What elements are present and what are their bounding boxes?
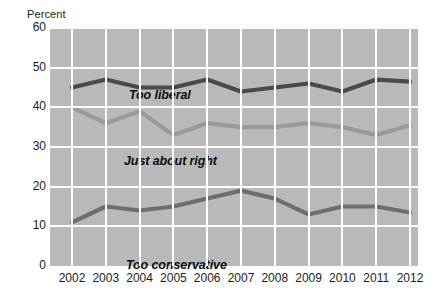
y-axis-tick-label: 0 <box>2 258 46 272</box>
x-axis-tick-labels: 2002200320042005200620072008200920102011… <box>0 271 438 293</box>
x-axis-tick-label: 2010 <box>329 271 356 285</box>
gridline-vertical <box>206 28 208 266</box>
x-axis-tick-label: 2011 <box>363 271 389 285</box>
x-axis-tick-label: 2003 <box>92 271 119 285</box>
y-axis-tick-labels: 6050403020100 <box>0 0 46 299</box>
y-axis-tick-label: 40 <box>2 99 46 113</box>
plot-area: Too liberal Just about right Too conserv… <box>50 28 418 266</box>
x-axis-tick-label: 2008 <box>261 271 288 285</box>
gridline-vertical <box>308 28 310 266</box>
x-axis-tick-label: 2009 <box>295 271 322 285</box>
y-axis-tick-label: 20 <box>2 179 46 193</box>
x-axis-tick-label: 2005 <box>160 271 187 285</box>
x-axis-tick-label: 2007 <box>228 271 255 285</box>
chart-page: Percent 6050403020100 Too liberal Just a… <box>0 0 438 299</box>
gridline-vertical <box>71 28 73 266</box>
x-axis-tick-label: 2006 <box>194 271 221 285</box>
x-axis-tick-label: 2012 <box>397 271 424 285</box>
x-axis-tick-label: 2004 <box>126 271 153 285</box>
gridline-vertical <box>240 28 242 266</box>
gridline-vertical <box>341 28 343 266</box>
gridline-vertical <box>105 28 107 266</box>
y-axis-tick-label: 60 <box>2 20 46 34</box>
series-label-too-conservative: Too conservative <box>126 258 227 272</box>
x-axis-tick-label: 2002 <box>59 271 86 285</box>
gridline-vertical <box>409 28 411 266</box>
y-axis-tick-label: 30 <box>2 139 46 153</box>
gridline-vertical <box>172 28 174 266</box>
y-axis-tick-label: 50 <box>2 60 46 74</box>
gridline-vertical <box>139 28 141 266</box>
y-axis-tick-label: 10 <box>2 218 46 232</box>
gridline-vertical <box>375 28 377 266</box>
gridline-vertical <box>274 28 276 266</box>
